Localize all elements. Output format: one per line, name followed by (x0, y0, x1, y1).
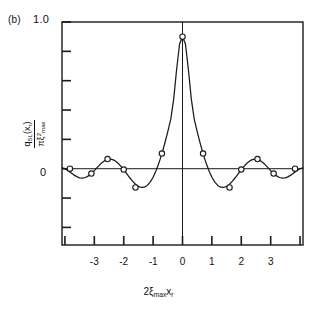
x-tick-label: 2 (239, 256, 245, 267)
data-marker (180, 34, 185, 39)
data-marker (121, 167, 126, 172)
x-tick-label: 3 (268, 256, 274, 267)
x-tick-label: 1 (209, 256, 215, 267)
x-axis-tick-labels: -3-2-10123 (0, 256, 317, 270)
data-marker (89, 171, 94, 176)
data-marker (227, 185, 232, 190)
data-marker (133, 185, 138, 190)
x-tick-label: 0 (180, 256, 186, 267)
data-marker (105, 156, 110, 161)
figure-panel-b: (b) 1.0 0 qSL(xr) πξ2max -3-2-10123 2ξma… (0, 0, 317, 309)
data-marker (200, 151, 205, 156)
x-tick-label: -2 (119, 256, 128, 267)
data-marker (67, 166, 72, 171)
data-marker (239, 167, 244, 172)
x-tick-label: -1 (149, 256, 158, 267)
data-marker (255, 156, 260, 161)
data-marker (271, 171, 276, 176)
data-marker (159, 151, 164, 156)
x-axis-label: 2ξmaxxr (0, 286, 317, 298)
x-tick-label: -3 (90, 256, 99, 267)
data-marker (292, 166, 297, 171)
